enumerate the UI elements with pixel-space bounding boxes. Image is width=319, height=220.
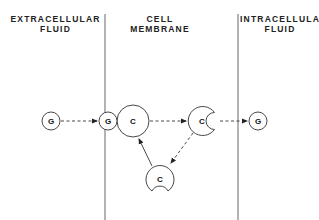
glucose-inside-label: G — [255, 117, 261, 126]
arrow-carrier-return — [171, 133, 193, 163]
glucose-bound-label: G — [105, 117, 111, 126]
glucose-inside: G — [249, 112, 267, 130]
glucose-bound: G — [99, 112, 117, 130]
glucose-outside-label: G — [48, 117, 54, 126]
carrier-open-inside-label: C — [199, 117, 205, 126]
transport-diagram: G C G C G C — [0, 0, 319, 220]
carrier-bound-label: C — [130, 117, 136, 126]
arrow-carrier-reorient — [139, 139, 152, 166]
carrier-recycling-label: C — [157, 175, 163, 184]
carrier-open-inside: C — [188, 107, 214, 136]
carrier-bound: C — [117, 105, 149, 137]
glucose-outside: G — [42, 112, 60, 130]
carrier-recycling: C — [146, 166, 174, 191]
